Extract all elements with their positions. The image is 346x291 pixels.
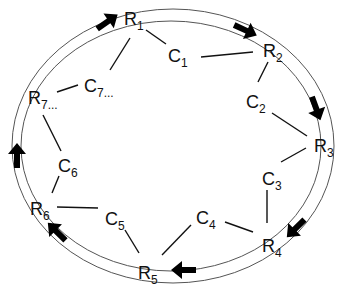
connector-node-c6: C6: [58, 156, 78, 180]
link-c1-r2: [201, 52, 253, 57]
arrow-near-R3-icon: [303, 94, 328, 124]
link-r1-c1: [146, 30, 166, 44]
arrow-near-R5-icon: [171, 261, 196, 279]
resource-node-r3: R3: [314, 136, 334, 160]
arrow-near-R7-icon: [8, 143, 26, 168]
link-c2-r3: [272, 113, 307, 136]
arrow-near-R1-icon: [92, 7, 123, 36]
connector-node-c5: C5: [105, 209, 125, 233]
resource-node-r5: R5: [138, 263, 158, 287]
ring-diagram: R1R2R3R4R5R6R7...C1C2C3C4C5C6C7...: [0, 0, 346, 291]
connector-node-c2: C2: [246, 92, 266, 116]
resource-node-r1: R1: [124, 9, 144, 33]
connector-node-c7: C7...: [84, 76, 114, 100]
link-c6-r7: [43, 115, 61, 151]
resource-node-r6: R6: [30, 199, 50, 223]
connector-node-c1: C1: [168, 46, 188, 70]
connector-node-c3: C3: [262, 169, 282, 193]
link-r7-c7: [57, 85, 78, 92]
resource-node-r4: R4: [262, 236, 282, 260]
arrow-near-R2-icon: [230, 17, 260, 44]
link-r4-c4: [225, 222, 253, 232]
link-r3-c3: [281, 148, 306, 162]
link-r5-c5: [125, 230, 139, 253]
link-c7-r1: [110, 38, 130, 70]
arrow-near-R4-icon: [280, 213, 310, 243]
link-c5-r6: [57, 207, 98, 208]
connector-node-c4: C4: [196, 208, 216, 232]
resource-node-r7: R7...: [28, 88, 58, 112]
resource-node-r2: R2: [263, 41, 283, 65]
link-r2-c2: [258, 62, 268, 82]
link-r6-c6: [52, 176, 59, 193]
link-c4-r5: [162, 225, 191, 255]
